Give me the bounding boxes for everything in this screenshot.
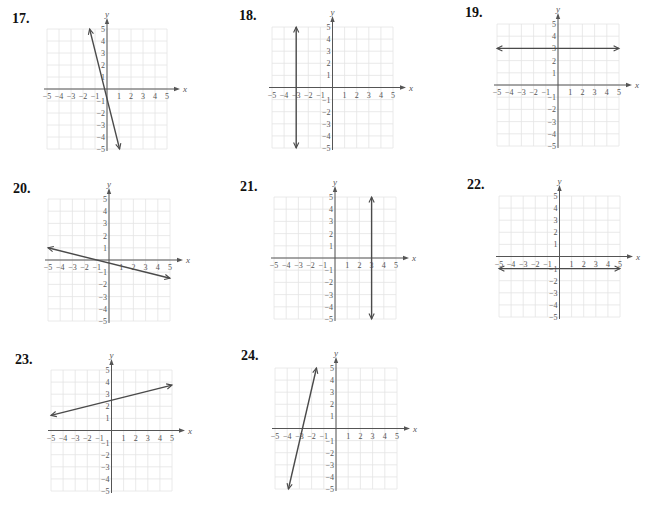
x-tick-label: −5 — [271, 432, 280, 441]
y-tick-label: 4 — [552, 32, 556, 41]
x-tick-label: −4 — [505, 88, 514, 97]
x-tick-label: 1 — [122, 434, 126, 443]
y-tick-label: 5 — [552, 20, 556, 29]
x-tick-label: 3 — [141, 92, 145, 101]
y-tick-label: −3 — [322, 120, 331, 129]
x-axis-arrow-icon — [627, 254, 633, 258]
x-tick-label: −5 — [268, 91, 277, 100]
y-tick-label: −2 — [96, 109, 105, 118]
x-axis-arrow-icon — [179, 428, 185, 432]
y-tick-label: 5 — [101, 25, 105, 34]
graph-24: xy−5−4−3−2−11234554321−1−2−3−4−5 — [271, 348, 417, 494]
y-tick-label: −2 — [325, 449, 334, 458]
y-tick-label: −3 — [549, 289, 558, 298]
x-tick-label: 3 — [594, 260, 598, 269]
x-tick-label: 5 — [394, 261, 398, 270]
y-tick-label: 1 — [329, 242, 333, 251]
x-tick-label: 5 — [395, 432, 399, 441]
graph-22: xy−5−4−3−2−11234554321−1−2−3−4−5 — [495, 176, 640, 322]
x-tick-label: −5 — [44, 263, 53, 272]
y-tick-label: 5 — [329, 193, 333, 202]
y-tick-label: −4 — [547, 130, 556, 139]
y-tick-label: −3 — [96, 121, 105, 130]
x-axis-arrow-icon — [174, 87, 180, 91]
x-tick-label: −2 — [304, 91, 313, 100]
y-tick-label: −3 — [101, 463, 110, 472]
x-tick-label: −3 — [71, 434, 80, 443]
graph-17: xy−5−4−3−2−11234554321−1−2−3−4−5 — [43, 9, 187, 154]
x-axis-label: x — [635, 252, 640, 262]
x-axis-label: x — [411, 253, 416, 263]
y-tick-label: 2 — [552, 57, 556, 66]
x-tick-label: −3 — [68, 263, 77, 272]
y-tick-label: 2 — [554, 228, 558, 237]
graphs-canvas: xy−5−4−3−2−11234554321−1−2−3−4−5xy−5−4−3… — [0, 0, 654, 507]
x-tick-label: 4 — [383, 432, 387, 441]
y-tick-label: −3 — [547, 118, 556, 127]
y-tick-label: −1 — [101, 439, 110, 448]
y-tick-label: −5 — [549, 313, 558, 322]
x-tick-label: −4 — [55, 92, 64, 101]
x-tick-label: 5 — [170, 434, 174, 443]
x-axis-label: x — [412, 424, 417, 434]
y-tick-label: 1 — [554, 240, 558, 249]
x-tick-label: 2 — [358, 432, 362, 441]
y-tick-label: 1 — [106, 414, 110, 423]
x-tick-label: 3 — [146, 434, 150, 443]
x-tick-label: −4 — [283, 432, 292, 441]
y-tick-label: −5 — [322, 144, 331, 153]
x-axis-arrow-icon — [626, 83, 632, 87]
x-tick-label: 4 — [153, 92, 157, 101]
graph-20: xy−5−4−3−2−11234554321−1−2−3−4−5 — [44, 179, 190, 326]
y-tick-label: −1 — [98, 268, 107, 277]
y-tick-label: −5 — [96, 145, 105, 154]
x-tick-label: 1 — [343, 91, 347, 100]
x-tick-label: 1 — [345, 261, 349, 270]
y-tick-label: 2 — [101, 61, 105, 70]
y-tick-label: −3 — [98, 293, 107, 302]
y-tick-label: 3 — [103, 219, 107, 228]
y-tick-label: −2 — [547, 105, 556, 114]
y-tick-label: 1 — [330, 412, 334, 421]
x-axis-arrow-icon — [400, 85, 406, 89]
x-tick-label: −4 — [280, 91, 289, 100]
y-tick-label: −4 — [322, 132, 331, 141]
x-tick-label: −3 — [517, 88, 526, 97]
x-tick-label: −3 — [67, 92, 76, 101]
y-tick-label: 4 — [330, 376, 334, 385]
x-tick-label: 1 — [568, 88, 572, 97]
y-tick-label: 2 — [330, 400, 334, 409]
y-tick-label: 5 — [554, 192, 558, 201]
x-tick-label: 1 — [117, 92, 121, 101]
x-tick-label: −3 — [294, 261, 303, 270]
x-tick-label: 3 — [144, 263, 148, 272]
x-axis-label: x — [182, 84, 187, 94]
x-tick-label: −3 — [519, 260, 528, 269]
graph-21: xy−5−4−3−2−11234554321−1−2−3−4−5 — [270, 177, 416, 324]
y-tick-label: −1 — [96, 97, 105, 106]
x-tick-label: 3 — [371, 432, 375, 441]
x-tick-label: 5 — [391, 91, 395, 100]
y-axis-label: y — [330, 7, 335, 17]
y-tick-label: 4 — [554, 204, 558, 213]
x-tick-label: 2 — [582, 260, 586, 269]
y-axis-label: y — [333, 348, 338, 358]
x-tick-label: 5 — [617, 88, 621, 97]
x-tick-label: −2 — [80, 263, 89, 272]
graph-23: xy−5−4−3−2−11234554321−1−2−3−4−5 — [47, 350, 192, 496]
x-axis-label: x — [408, 83, 413, 93]
x-tick-label: −5 — [493, 88, 502, 97]
x-tick-label: −2 — [529, 88, 538, 97]
y-tick-label: 3 — [327, 47, 331, 56]
x-axis-label: x — [185, 255, 190, 265]
x-tick-label: 3 — [367, 91, 371, 100]
y-tick-label: 2 — [103, 232, 107, 241]
y-tick-label: −5 — [98, 317, 107, 326]
y-tick-label: −2 — [549, 277, 558, 286]
y-tick-label: 4 — [103, 207, 107, 216]
x-tick-label: 4 — [158, 434, 162, 443]
x-tick-label: −4 — [56, 263, 65, 272]
y-tick-label: −5 — [324, 315, 333, 324]
y-tick-label: 1 — [552, 69, 556, 78]
x-tick-label: −4 — [282, 261, 291, 270]
